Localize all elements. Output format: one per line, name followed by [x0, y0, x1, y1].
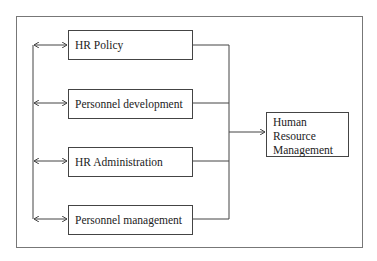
box-personnel-development: Personnel development [68, 89, 193, 119]
hrm-line-2: Resource [273, 129, 348, 143]
box-human-resource-management: Human Resource Management [266, 112, 349, 157]
box-hr-policy: HR Policy [68, 30, 193, 60]
hrm-line-3: Management [273, 143, 348, 157]
box-label: HR Policy [75, 39, 123, 51]
box-label: Personnel development [75, 98, 183, 110]
hrm-line-1: Human [273, 115, 348, 129]
box-label: Personnel management [75, 214, 182, 226]
box-label: HR Administration [75, 156, 163, 168]
box-hr-administration: HR Administration [68, 147, 193, 177]
box-personnel-management: Personnel management [68, 205, 193, 235]
